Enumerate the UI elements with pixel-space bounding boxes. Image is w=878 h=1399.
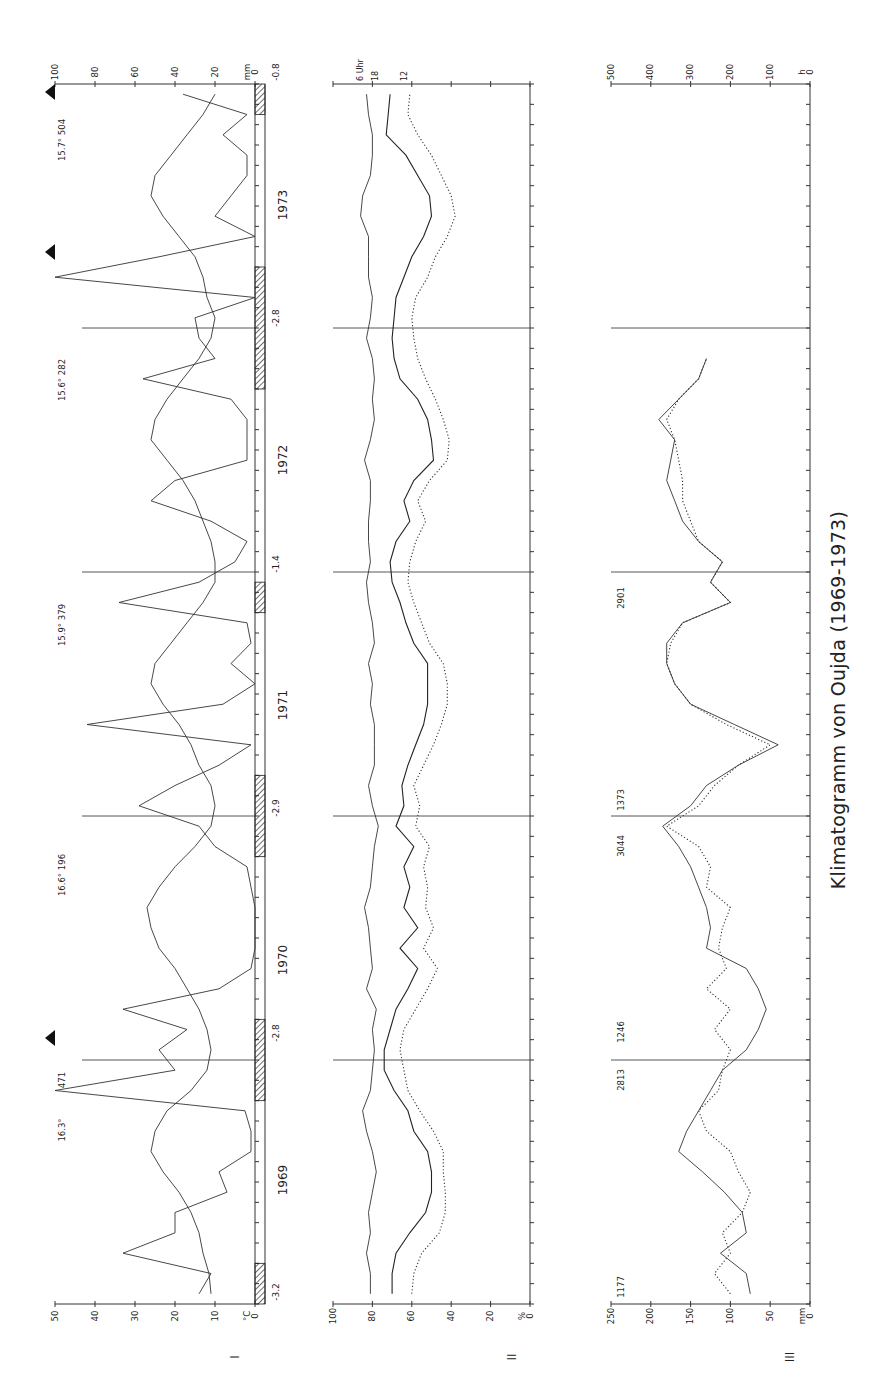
cold-bar-label: -2.9 [271,799,281,817]
panel-I-temp-axis-unit-label: °C [242,1311,252,1321]
panel-II-humidity-axis-unit-label: % [517,1312,527,1320]
annual-sunshine-label: 1177 [616,1276,626,1298]
panel-III-sunshine-axis-tick-label: 400 [645,64,655,80]
humidity-18uhr-line [384,94,433,1294]
temperature-line [147,94,215,1294]
panel-II-humidity-axis-tick-label: 20 [485,1311,495,1322]
panel-temperature-precipitation: -3.2-2.8-2.9-1.4-2.8-0.81969197019711972… [45,63,290,1359]
cold-bar-label: -1.4 [271,555,281,573]
cold-bar-hatched [255,1263,265,1304]
annual-sunshine-label: 3044 [616,835,626,857]
panel-I-temp-axis-tick-label: 10 [210,1311,220,1322]
panel-III-precip-axis-tick-label: 100 [725,1308,735,1324]
panel-relative-humidity: 020406080100%6 Uhr1812II [328,58,535,1360]
panel-I-precip-axis-tick-label: 100 [50,64,60,80]
panel-I-temp-axis-tick-label: 20 [170,1311,180,1322]
sunshine-line [659,359,778,1294]
panel-III-sunshine-axis-tick-label: 500 [606,64,616,80]
panel-I-precip-axis-unit-label: mm [242,64,252,81]
panel-label-I: I [228,1355,242,1359]
panel-II-humidity-axis-tick-label: 60 [406,1311,416,1322]
year-label: 1971 [276,690,290,721]
panel-II-humidity-axis-tick-label: 100 [328,1308,338,1324]
panel-III-sunshine-axis-tick-label: 200 [725,64,735,80]
annual-summary-label: 15.7° 504 [57,119,67,161]
annual-summary-label: 16.6° 196 [57,854,67,896]
annual-sunshine-label: 2901 [616,587,626,609]
panel-I-precip-axis-tick-label: 40 [170,67,180,78]
legend-6uhr-label: 6 Uhr [356,58,365,81]
panel-III-precip-axis-tick-label: 250 [606,1308,616,1324]
panel-III-sunshine-axis-unit-label: h [797,69,807,74]
annual-summary-label: 15.9° 379 [57,604,67,646]
panel-I-precip-axis-tick-label: 60 [130,67,140,78]
panel-I-precip-axis-tick-label: 80 [90,67,100,78]
year-label: 1969 [276,1165,290,1196]
annual-summary-label: 15.6° 282 [57,359,67,401]
cold-bar-hatched [255,84,265,115]
cold-bar-label: -3.2 [271,1283,281,1301]
panel-II-humidity-axis-tick-label: 40 [446,1311,456,1322]
climatogram-svg: -3.2-2.8-2.9-1.4-2.8-0.81969197019711972… [0,0,878,1399]
panel-III-precip-axis-tick-label: 150 [685,1308,695,1324]
panel-III-precip-axis-tick-label: 50 [765,1311,775,1322]
cold-bar-label: -2.8 [271,309,281,327]
cold-bar-hatched [255,775,265,856]
panel-III-sunshine-axis-tick-label: 300 [685,64,695,80]
annual-sunshine-label: 2813 [616,1069,626,1091]
annual-precip-label: 471 [57,1072,67,1088]
cold-bar-label: -2.8 [271,1024,281,1042]
cold-bar-label: -0.8 [271,63,281,81]
panel-III-precip-axis-tick-label: 200 [645,1308,655,1324]
legend-12uhr-label: 12 [400,71,409,81]
panel-III-precip-axis-unit-label: mm [797,1308,807,1325]
year-label: 1973 [276,190,290,221]
panel-I-precip-axis-tick-label: 20 [210,67,220,78]
panel-label-II: II [505,1353,519,1360]
cold-bar-hatched [255,582,265,613]
overflow-marker-triangle [45,1030,55,1046]
humidity-6uhr-line [361,94,379,1294]
cold-bar-hatched [255,267,265,389]
panel-I-temp-axis-tick-label: 40 [90,1311,100,1322]
climatogram-figure: -3.2-2.8-2.9-1.4-2.8-0.81969197019711972… [0,0,878,1399]
annual-precip-label: 1246 [616,1021,626,1043]
cold-bar-hatched [255,1019,265,1100]
annual-mean-temp-label: 16.3° [57,1118,67,1141]
overflow-marker-triangle [45,84,55,100]
overflow-marker-triangle [45,244,55,260]
figure-title: Klimatogramm von Oujda (1969-1973) [827,511,849,889]
legend-18uhr-label: 18 [371,71,380,81]
panel-label-III: III [783,1352,797,1363]
precipitation-line [55,94,255,1294]
panel-I-temp-axis-tick-label: 30 [130,1311,140,1322]
panel-sunshine-precipitation: 050100150200250mm0100200300400500h117728… [606,64,815,1362]
panel-I-temp-axis-tick-label: 50 [50,1311,60,1322]
annual-precip-label: 1373 [616,789,626,811]
year-label: 1970 [276,945,290,976]
precipitation-line-III [667,359,771,1294]
panel-III-sunshine-axis-tick-label: 100 [765,64,775,80]
year-label: 1972 [276,445,290,476]
panel-II-humidity-axis-tick-label: 80 [367,1311,377,1322]
